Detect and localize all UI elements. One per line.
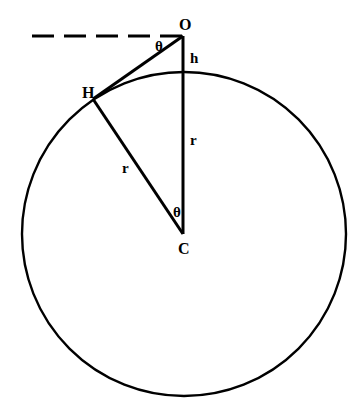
label-H: H — [82, 84, 95, 101]
label-h: h — [190, 50, 199, 66]
label-theta-center: θ — [173, 204, 181, 220]
label-C: C — [178, 240, 190, 257]
label-r-slanted: r — [122, 160, 129, 176]
label-theta-observer: θ — [155, 38, 163, 54]
label-r-vertical: r — [190, 132, 197, 148]
line-of-sight-OH — [93, 36, 183, 99]
horizon-diagram: O θ h H r r θ C — [0, 0, 363, 416]
label-O: O — [179, 16, 191, 33]
radius-line-HC — [93, 99, 183, 234]
